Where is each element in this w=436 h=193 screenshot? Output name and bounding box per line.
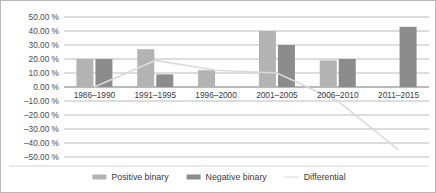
- x-axis-tick-label: 2011–2015: [378, 90, 419, 100]
- x-axis-tick-label: 1991–1995: [134, 90, 176, 100]
- y-axis-tick-label: 0.00 %: [33, 82, 59, 92]
- y-axis-tick-label: 50.00 %: [29, 12, 60, 22]
- y-axis-tick-label: 10.00 %: [29, 68, 60, 78]
- bar-positive-binary: [198, 70, 215, 87]
- legend-swatch-negative-binary: [187, 175, 201, 180]
- chart-plot-area: 50.00 %40.00 %30.00 %20.00 %10.00 %0.00 …: [1, 1, 435, 192]
- y-axis-tick-label: 30.00 %: [29, 40, 60, 50]
- bar-positive-binary: [76, 59, 93, 87]
- y-axis-tick-label: 20.00 %: [29, 54, 60, 64]
- legend-label: Negative binary: [206, 172, 268, 182]
- y-axis-tick-label: –40.00 %: [24, 138, 60, 148]
- legend-swatch-positive-binary: [92, 175, 106, 180]
- bar-negative-binary: [339, 59, 356, 87]
- bar-negative-binary: [156, 74, 173, 87]
- x-axis-tick-label: 1996–2000: [195, 90, 237, 100]
- bar-positive-binary: [259, 31, 276, 87]
- legend-label: Differential: [304, 172, 346, 182]
- y-axis-tick-label: –20.00 %: [24, 110, 60, 120]
- y-axis-tick-label: –10.00 %: [24, 96, 60, 106]
- y-axis-tick-label: –50.00 %: [24, 152, 60, 162]
- bar-positive-binary: [320, 60, 337, 87]
- x-axis-tick-label: 1986–1990: [74, 90, 116, 100]
- y-axis-tick-label: 40.00 %: [29, 26, 60, 36]
- chart-svg: 50.00 %40.00 %30.00 %20.00 %10.00 %0.00 …: [1, 1, 436, 193]
- bar-negative-binary: [400, 27, 417, 87]
- chart-container: 50.00 %40.00 %30.00 %20.00 %10.00 %0.00 …: [0, 0, 436, 193]
- bar-positive-binary: [137, 49, 154, 87]
- x-axis-tick-label: 2001–2005: [256, 90, 298, 100]
- y-axis-tick-label: –30.00 %: [24, 124, 60, 134]
- legend-label: Positive binary: [111, 172, 169, 182]
- x-axis-tick-label: 2006–2010: [317, 90, 359, 100]
